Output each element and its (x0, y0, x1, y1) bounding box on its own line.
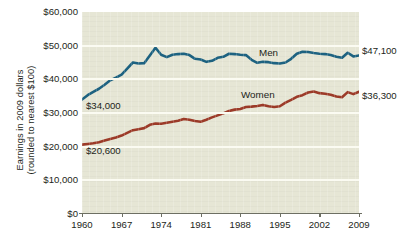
men-series-label: Men (259, 47, 278, 58)
men-start-value-label: $34,000 (86, 100, 121, 111)
x-axis-tick-mark (359, 213, 360, 217)
x-axis-tick-mark (280, 213, 281, 217)
y-axis-tick-label: $50,000 (0, 40, 78, 51)
x-axis-tick-label: 2009 (336, 219, 382, 230)
x-axis-tick-mark (240, 213, 241, 217)
y-axis-tick-labels: $0$10,000$20,000$30,000$40,000$50,000$60… (0, 0, 78, 242)
y-axis-tick-label: $20,000 (0, 141, 78, 152)
y-axis-tick-label: $40,000 (0, 73, 78, 84)
women-line (82, 91, 359, 144)
x-axis-tick-mark (122, 213, 123, 217)
x-axis-tick-mark (201, 213, 202, 217)
y-axis-tick-label: $0 (0, 208, 78, 219)
gridline (82, 146, 359, 148)
y-axis-tick-label: $30,000 (0, 107, 78, 118)
x-axis-tick-mark (319, 213, 320, 217)
x-axis-tick-mark (82, 213, 83, 217)
women-start-value-label: $20,600 (86, 145, 121, 156)
men-end-value-label: $47,100 (362, 45, 397, 56)
plot-area (82, 12, 359, 214)
y-axis-tick-label: $60,000 (0, 6, 78, 17)
earnings-line-chart: Earnings in 2009 dollars (rounded to nea… (0, 0, 405, 242)
women-series-label: Women (241, 89, 275, 100)
gridline (82, 45, 359, 47)
gridline (82, 179, 359, 181)
gridline (82, 112, 359, 114)
x-axis-tick-mark (161, 213, 162, 217)
y-axis-tick-label: $10,000 (0, 174, 78, 185)
women-end-value-label: $36,300 (362, 90, 397, 101)
gridline (82, 78, 359, 80)
